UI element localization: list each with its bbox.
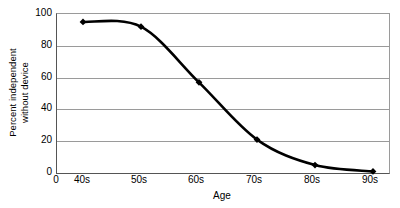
- y-tick-label-60: 60: [30, 72, 52, 82]
- data-point-40s: [80, 19, 87, 26]
- y-tick-label-20: 20: [30, 135, 52, 145]
- series-markers: [80, 19, 377, 175]
- x-axis-tick-labels: 0 40s 50s 60s 70s 80s 90s: [0, 174, 400, 188]
- plot-area: [56, 13, 390, 174]
- x-axis-title: Age: [56, 190, 388, 202]
- series-line-path: [83, 21, 373, 172]
- x-tick-label-90s: 90s: [350, 174, 390, 186]
- y-tick-label-100: 100: [30, 8, 52, 18]
- x-tick-label-70s: 70s: [234, 174, 274, 186]
- x-tick-label-50s: 50s: [119, 174, 159, 186]
- y-tick-label-80: 80: [30, 40, 52, 50]
- x-tick-label-40s: 40s: [62, 174, 102, 186]
- chart-figure: Percent independent without device 0 20 …: [0, 0, 400, 208]
- x-tick-label-80s: 80s: [292, 174, 332, 186]
- x-tick-label-60s: 60s: [176, 174, 216, 186]
- y-axis-title-line-1: Percent independent: [7, 48, 19, 137]
- data-point-80s: [312, 162, 319, 169]
- series-line-chart: [57, 14, 389, 173]
- y-tick-label-40: 40: [30, 103, 52, 113]
